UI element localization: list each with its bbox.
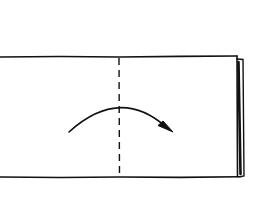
paper-bottom-edge <box>0 177 240 178</box>
fold-diagram <box>0 0 254 199</box>
background <box>0 0 254 199</box>
